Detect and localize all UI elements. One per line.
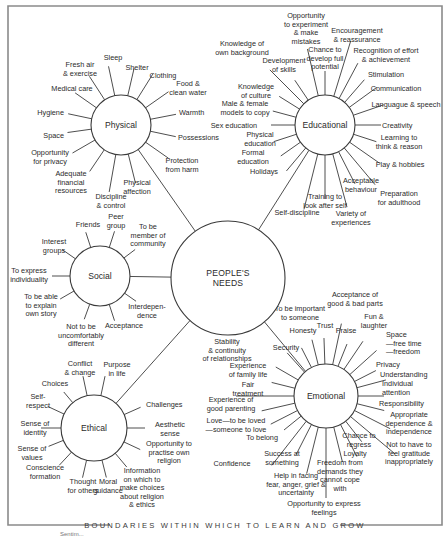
spoke-line xyxy=(48,406,64,414)
need-label: Languague & speech xyxy=(372,100,441,109)
spoke-line xyxy=(128,68,134,95)
spoke-line xyxy=(49,440,64,446)
need-label: Food &clean water xyxy=(169,79,207,97)
need-label: Sleep xyxy=(104,53,123,62)
need-label: Play & hobbies xyxy=(376,160,425,169)
need-label: To belong xyxy=(246,433,278,442)
need-label: Appropriatedependence &independence xyxy=(385,410,432,436)
footer-fragment: Sentim... xyxy=(60,531,84,537)
need-label: Honesty xyxy=(290,326,317,335)
hub-label-emotional: Emotional xyxy=(307,391,345,401)
need-label: Success atsomething xyxy=(264,449,300,467)
need-label: Discipline& control xyxy=(95,192,126,210)
spoke-line xyxy=(124,442,140,450)
spoke-line xyxy=(109,231,114,247)
need-label: Opportunity topractise ownreligion xyxy=(146,439,192,465)
need-label: Not to beuncomfortablydifferent xyxy=(58,322,104,348)
need-label: Protectionfrom harm xyxy=(165,156,198,174)
need-label: Understanding xyxy=(380,370,427,379)
hub-label-ethical: Ethical xyxy=(81,423,107,433)
spoke-line xyxy=(273,111,296,117)
spoke-line xyxy=(84,304,89,319)
peoples-needs-diagram: PhysicalSleepShelterClothingFood &clean … xyxy=(0,0,445,537)
need-label: Holidays xyxy=(250,167,278,176)
spoke-line xyxy=(109,305,114,321)
spoke-line xyxy=(355,371,376,382)
need-label: Security xyxy=(273,343,300,352)
need-label: Adequatefinancialresources xyxy=(55,169,87,195)
spoke-line xyxy=(60,291,74,299)
need-label: Sense ofvalues xyxy=(18,444,48,462)
need-label: Love—to be loved—someone to love xyxy=(206,416,267,434)
need-label: Fresh air& exercise xyxy=(63,60,97,78)
spoke-line xyxy=(146,92,169,108)
hub-educational: EducationalOpportunityto experiment& mak… xyxy=(211,11,441,227)
spoke-line xyxy=(284,416,301,430)
spoke-line xyxy=(312,340,318,365)
spoke-line xyxy=(150,131,175,136)
spoke-line xyxy=(334,427,343,462)
spoke-line xyxy=(109,155,116,192)
need-label: Moralguidance xyxy=(93,477,123,495)
need-label: Praise xyxy=(336,326,357,335)
spoke-line xyxy=(109,66,115,95)
hub-label-social: Social xyxy=(88,271,111,281)
spoke-line xyxy=(354,134,377,141)
need-label: Opportunityfor privacy xyxy=(31,148,69,166)
need-label: Privacy xyxy=(376,360,400,369)
need-label: Physicalaffection xyxy=(123,178,151,196)
need-label: Experienceof family life xyxy=(229,361,268,379)
need-label: Preparationfor adulthood xyxy=(378,189,421,207)
hub-label-physical: Physical xyxy=(105,120,137,130)
need-label: Knowledge ofown background xyxy=(215,39,269,57)
need-label: Trust xyxy=(317,321,333,330)
need-label: Variety ofexperiences xyxy=(331,209,371,227)
need-label: Knowledgeof culture xyxy=(238,82,274,100)
spoke-line xyxy=(83,460,87,478)
need-label: Fun &laughter xyxy=(361,312,388,330)
need-label: Possessions xyxy=(178,133,219,142)
connector-social xyxy=(130,276,171,277)
need-label: Developmentof skills xyxy=(263,56,306,74)
need-label: Interestgroups xyxy=(42,237,66,255)
need-label: Learning tothink & reason xyxy=(376,133,423,151)
spoke-line xyxy=(272,382,295,388)
spoke-line xyxy=(83,376,87,396)
spoke-line xyxy=(274,134,297,141)
spoke-line xyxy=(287,353,304,372)
need-label: Male & femalemodels to copy xyxy=(220,99,269,117)
spoke-line xyxy=(276,367,299,380)
spoke-line xyxy=(115,453,127,467)
need-label: Self-respect xyxy=(26,392,50,410)
need-label: To expressindividuality xyxy=(10,266,48,284)
spoke-line xyxy=(281,142,301,156)
need-label: Training tolook after self xyxy=(303,192,347,210)
need-label: Challenges xyxy=(146,400,183,409)
need-label: Creativity xyxy=(382,121,413,130)
spoke-line xyxy=(75,93,96,108)
spoke-line xyxy=(150,114,176,119)
need-label: Self-discipline xyxy=(274,208,319,217)
spoke-line xyxy=(101,376,105,396)
need-label: Space xyxy=(43,131,64,140)
need-label: Formaleducation xyxy=(237,148,269,166)
need-label: Aestheticsense xyxy=(155,420,185,438)
need-label: Informationon which tomake choicesabout … xyxy=(120,466,165,509)
spoke-line xyxy=(270,70,304,104)
need-label: Encouragement& reassurance xyxy=(331,26,383,44)
need-label: Opportunityto experiment& makemistakes xyxy=(284,11,328,46)
spoke-line xyxy=(68,114,91,119)
spoke-line xyxy=(64,392,73,403)
hub-physical: PhysicalSleepShelterClothingFood &clean … xyxy=(31,53,219,210)
boundary-label: BOUNDARIES WITHIN WHICH TO LEARN AND GRO… xyxy=(84,521,365,530)
spoke-line xyxy=(73,140,96,153)
spoke-line xyxy=(124,407,140,414)
need-label: To bemember ofcommunity xyxy=(130,222,166,248)
spoke-line xyxy=(68,129,92,132)
need-label: Interdepen-dence xyxy=(128,302,166,320)
need-label: Acceptance xyxy=(105,321,143,330)
spoke-line xyxy=(125,293,136,301)
need-label: Opportunity to expressfeelings xyxy=(287,499,361,517)
spoke-line xyxy=(102,460,106,477)
need-label: Fairtreatment xyxy=(233,380,264,398)
